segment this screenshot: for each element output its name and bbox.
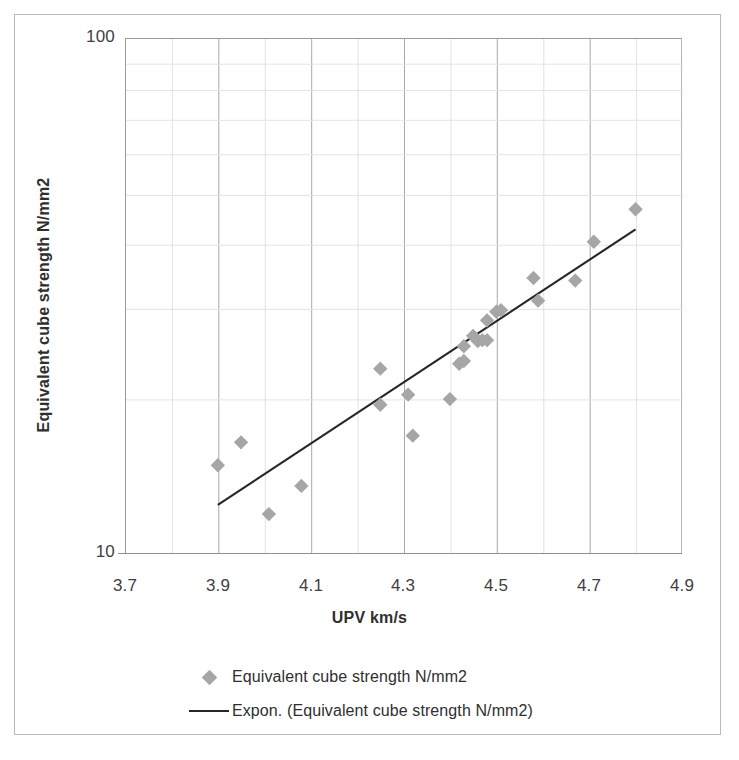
data-point: [457, 339, 471, 353]
chart-legend: Equivalent cube strength N/mm2 Expon. (E…: [186, 660, 656, 728]
data-point: [568, 273, 582, 287]
diamond-marker-icon: [186, 672, 232, 683]
data-point: [262, 507, 276, 521]
line-marker-icon: [186, 710, 232, 712]
data-point: [587, 235, 601, 249]
y-tick-label-bottom: 10: [55, 542, 115, 562]
data-point: [443, 392, 457, 406]
y-tick-label-top: 100: [55, 27, 115, 47]
data-point: [531, 293, 545, 307]
x-tick-label-6: 4.9: [652, 576, 712, 596]
data-point: [480, 313, 494, 327]
x-axis-title: UPV km/s: [0, 609, 739, 627]
x-tick-label-3: 4.3: [373, 576, 433, 596]
legend-item-scatter: Equivalent cube strength N/mm2: [186, 660, 656, 694]
data-point: [401, 387, 415, 401]
data-point: [628, 202, 642, 216]
data-layer: [125, 38, 682, 553]
x-tick-label-4: 4.5: [466, 576, 526, 596]
x-tick-label-1: 3.9: [188, 576, 248, 596]
data-point: [406, 428, 420, 442]
data-point: [373, 398, 387, 412]
data-point: [526, 271, 540, 285]
data-point: [294, 479, 308, 493]
x-axis-line: [118, 553, 682, 554]
x-tick-label-2: 4.1: [281, 576, 341, 596]
data-point: [234, 435, 248, 449]
legend-label-scatter: Equivalent cube strength N/mm2: [232, 668, 467, 686]
data-point: [211, 458, 225, 472]
data-point: [373, 361, 387, 375]
chart-figure: 100 10: [0, 0, 739, 760]
x-tick-label-5: 4.7: [559, 576, 619, 596]
legend-label-trendline: Expon. (Equivalent cube strength N/mm2): [232, 702, 533, 720]
trendline: [218, 229, 636, 505]
x-tick-label-0: 3.7: [95, 576, 155, 596]
legend-item-trendline: Expon. (Equivalent cube strength N/mm2): [186, 694, 656, 728]
y-axis-title: Equivalent cube strength N/mm2: [35, 140, 53, 470]
